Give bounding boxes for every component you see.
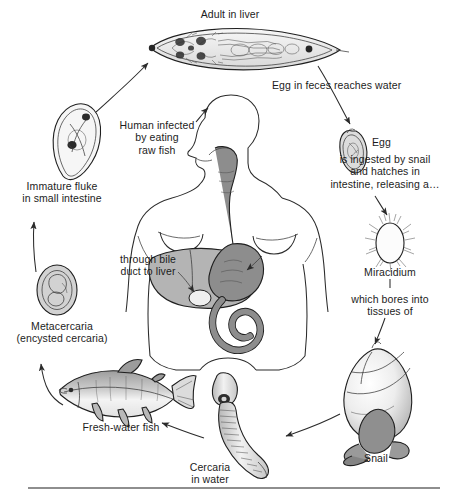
label-ingested-by-snail: is ingested by snail and hatches in inte…	[316, 153, 454, 190]
arrow-egg-to-miracidium	[375, 196, 387, 215]
label-fresh-water-fish: Fresh-water fish	[69, 421, 173, 433]
adult-fluke-illustration	[149, 29, 349, 70]
arrow-snail-to-cercaria	[286, 414, 340, 436]
label-which-bores-into-tissues: which bores into tissues of	[334, 293, 446, 318]
arrow-adult-to-egg	[318, 66, 350, 124]
arrow-metacercaria-to-immature	[33, 222, 36, 272]
label-through-bile-duct: through bile duct to liver	[110, 253, 186, 278]
label-adult-in-liver: Adult in liver	[160, 8, 300, 20]
arrow-fish-to-metacercaria	[41, 364, 63, 405]
metacercaria-illustration	[37, 265, 77, 315]
snail-illustration	[344, 342, 412, 466]
label-miracidium: Miracidium	[343, 266, 437, 278]
label-egg: Egg	[372, 136, 420, 148]
label-metacercaria: Metacercaria (encysted cercaria)	[6, 320, 118, 345]
footer-rule	[28, 487, 440, 489]
miracidium-illustration	[365, 213, 415, 272]
immature-fluke-illustration	[53, 104, 100, 180]
label-immature-fluke: Immature fluke in small intestine	[6, 180, 118, 205]
label-human-infected: Human infected by eating raw fish	[113, 119, 201, 156]
label-snail: Snail	[350, 452, 402, 464]
arrow-immature-to-adult	[96, 63, 148, 112]
life-cycle-figure: Adult in liver Egg in feces reaches wate…	[0, 0, 454, 498]
arrow-to-snail	[375, 318, 385, 344]
label-cercaria-in-water: Cercaria in water	[172, 461, 248, 486]
label-egg-in-feces: Egg in feces reaches water	[272, 79, 450, 91]
